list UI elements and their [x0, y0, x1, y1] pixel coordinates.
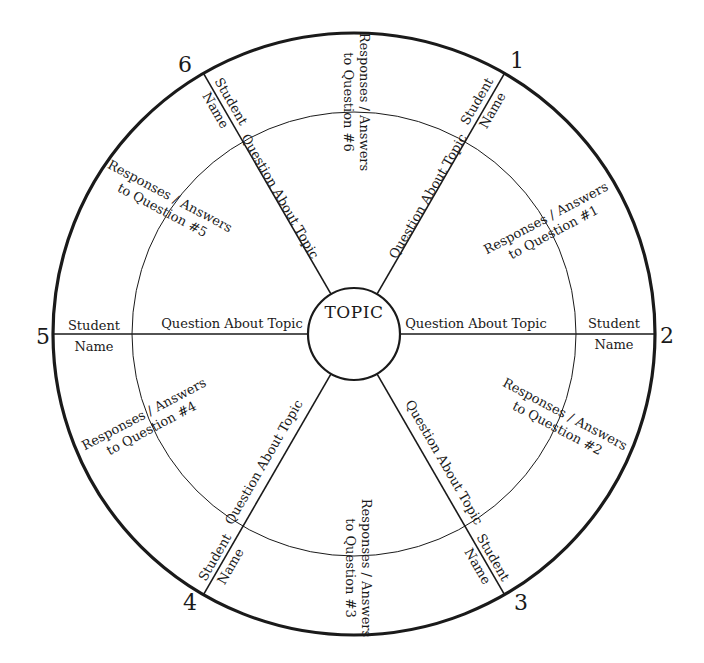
section-number-1: 1	[510, 48, 524, 73]
responses-6-line1: Responses / Answers	[357, 33, 372, 172]
responses-6-line2: to Question #6	[341, 52, 356, 151]
question-label-5: Question About Topic	[161, 316, 303, 331]
responses-3-line1: Responses / Answers	[359, 499, 374, 638]
question-label-3: Question About Topic	[402, 397, 486, 527]
question-label-4: Question About Topic	[222, 397, 306, 527]
section-number-6: 6	[178, 52, 192, 77]
question-label-6: Question About Topic	[238, 131, 322, 261]
question-label-1: Question About Topic	[386, 131, 470, 261]
spoke-4	[204, 374, 332, 595]
student-label-5-line1: Student	[68, 318, 121, 333]
spoke-3	[377, 374, 505, 595]
student-label-5-line2: Name	[74, 339, 113, 354]
responses-3-line2: to Question #3	[343, 518, 358, 617]
section-number-2: 2	[660, 323, 674, 348]
student-label-2-line2: Name	[594, 337, 633, 352]
section-number-4: 4	[183, 590, 197, 615]
section-number-5: 5	[36, 324, 50, 349]
section-number-3: 3	[514, 590, 528, 615]
topic-label: TOPIC	[325, 302, 384, 322]
question-label-2: Question About Topic	[405, 316, 547, 331]
discussion-wheel-diagram: TOPIC Question About Topic Question Abou…	[0, 0, 704, 663]
student-label-2-line1: Student	[588, 316, 641, 331]
